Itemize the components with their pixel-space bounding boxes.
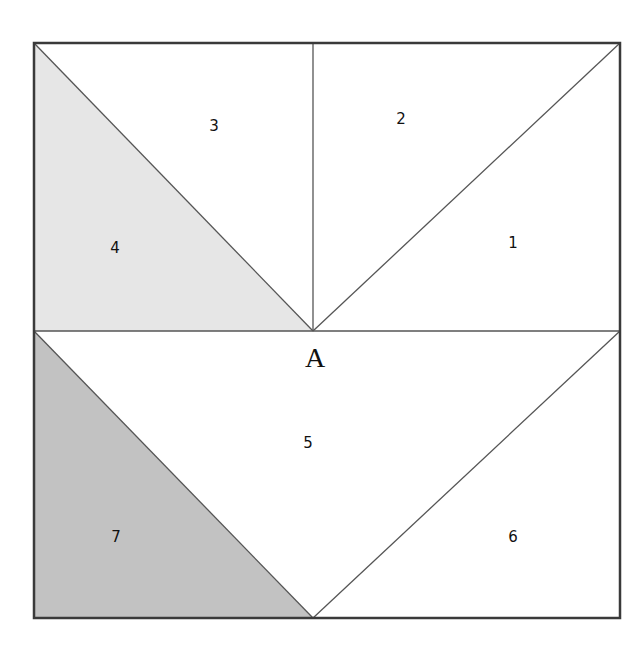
piece-label-5: 5 xyxy=(303,434,313,452)
quilt-diagram: 1 2 3 4 5 6 7 A xyxy=(0,0,626,654)
piece-label-7: 7 xyxy=(111,528,121,546)
piece-label-4: 4 xyxy=(110,239,120,257)
piece-label-1: 1 xyxy=(508,234,518,252)
piece-label-3: 3 xyxy=(209,117,219,135)
diagonal-5-6 xyxy=(313,331,620,618)
piece-label-2: 2 xyxy=(396,110,406,128)
section-label: A xyxy=(305,342,326,373)
piece-label-6: 6 xyxy=(508,528,518,546)
diagonal-1-2 xyxy=(313,43,620,331)
